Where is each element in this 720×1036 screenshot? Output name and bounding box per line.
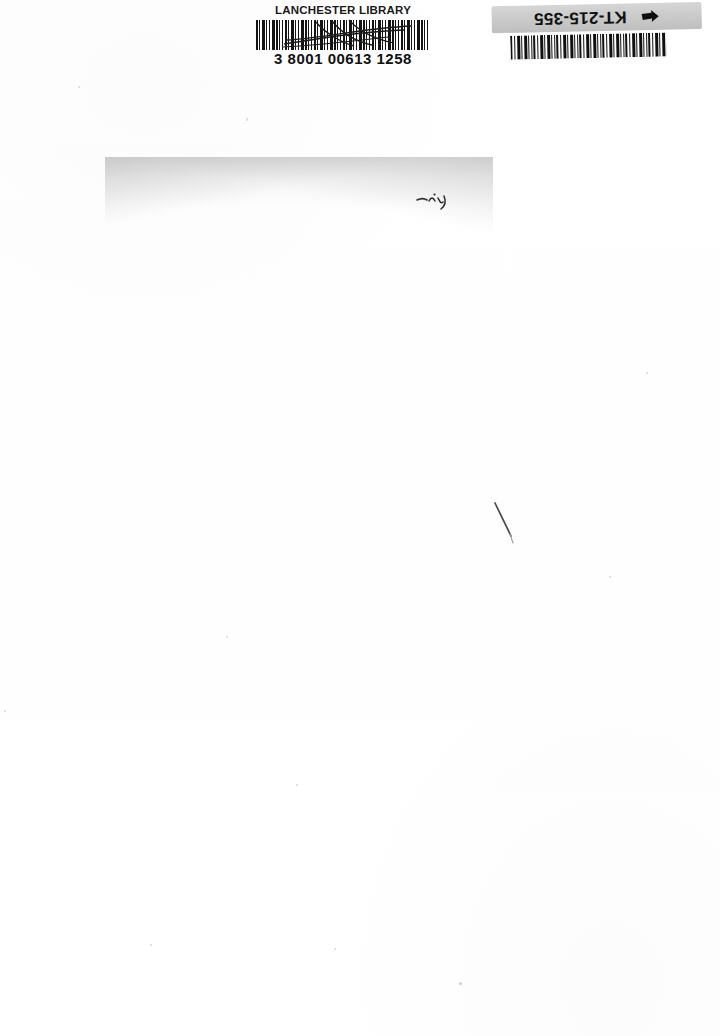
shelfmark-strip-content: KT-215-355 [491,2,702,33]
dust-speck [609,576,611,578]
handwritten-ink-mark [414,188,458,212]
arrow-pointer-icon [640,8,659,25]
library-barcode-label: LANCHESTER LIBRARY 3 8001 00613 1258 [254,2,432,72]
dust-speck [459,982,462,985]
library-name-text: LANCHESTER LIBRARY [254,4,432,16]
dust-speck [226,636,228,638]
scanned-page: LANCHESTER LIBRARY 3 8001 00613 1258 KT-… [0,0,720,1036]
shelfmark-text: KT-215-355 [534,7,627,29]
barcode-number-text: 3 8001 00613 1258 [254,50,432,67]
dust-speck [150,944,152,946]
dust-speck [78,86,80,88]
dust-speck [246,118,248,121]
shelfmark-barcode-bars [510,33,666,60]
shelfmark-label: KT-215-355 [487,0,710,66]
shelfmark-barcode-icon [510,33,666,60]
dust-speck [4,710,6,712]
dust-speck [646,372,648,374]
dust-speck [334,948,336,950]
diagonal-pen-stroke [490,500,520,544]
dust-speck [296,784,298,786]
paper-tone [0,0,720,1036]
barcode-icon [256,20,430,50]
barcode-bars [256,20,430,50]
